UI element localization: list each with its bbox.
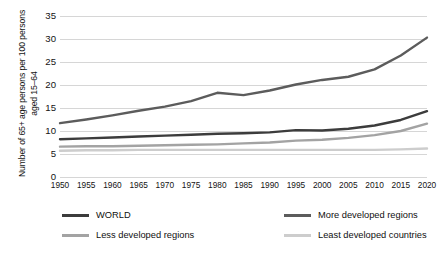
x-tick-label: 2020	[418, 180, 436, 190]
x-tick-label: 1965	[129, 180, 147, 190]
y-tick-label: 5	[34, 149, 56, 159]
x-tick-label: 1990	[260, 180, 278, 190]
y-tick-label: 30	[34, 34, 56, 44]
x-tick-label: 1950	[51, 180, 69, 190]
legend-label: More developed regions	[318, 210, 418, 221]
y-tick-label: 20	[34, 80, 56, 90]
legend-swatch-icon	[284, 234, 311, 237]
x-tick-label: 1955	[77, 180, 95, 190]
x-axis-tick-labels: 1950195519601965197019751980198519901995…	[60, 180, 427, 194]
x-tick-label: 1980	[208, 180, 226, 190]
gridline	[60, 177, 427, 178]
x-tick-label: 1960	[103, 180, 121, 190]
y-tick-label: 25	[34, 57, 56, 67]
x-tick-label: 2000	[313, 180, 331, 190]
legend-swatch-icon	[284, 214, 311, 217]
chart-legend: WORLDMore developed regionsLess develope…	[62, 208, 434, 248]
legend-label: Least developed countries	[318, 230, 427, 241]
x-tick-label: 1995	[287, 180, 305, 190]
legend-label: Less developed regions	[96, 230, 194, 241]
y-tick-label: 35	[34, 11, 56, 21]
series-layer	[60, 16, 427, 177]
series-line	[60, 38, 427, 124]
legend-item[interactable]: Less developed regions	[62, 228, 194, 242]
y-tick-label: 10	[34, 126, 56, 136]
series-line	[60, 124, 427, 147]
plot-area	[60, 16, 427, 177]
x-tick-label: 2005	[339, 180, 357, 190]
legend-item[interactable]: Least developed countries	[284, 228, 427, 242]
x-tick-label: 1985	[234, 180, 252, 190]
legend-swatch-icon	[62, 214, 89, 217]
x-tick-label: 2010	[365, 180, 383, 190]
x-tick-label: 2015	[392, 180, 410, 190]
legend-item[interactable]: WORLD	[62, 208, 131, 222]
series-line	[60, 148, 427, 150]
x-tick-label: 1975	[182, 180, 200, 190]
chart-container: Number of 65+ age persons per 100 person…	[0, 0, 444, 254]
y-axis-tick-labels: 05101520253035	[30, 16, 56, 177]
x-tick-label: 1970	[156, 180, 174, 190]
legend-label: WORLD	[96, 210, 131, 221]
legend-item[interactable]: More developed regions	[284, 208, 418, 222]
legend-swatch-icon	[62, 234, 89, 237]
y-tick-label: 15	[34, 103, 56, 113]
